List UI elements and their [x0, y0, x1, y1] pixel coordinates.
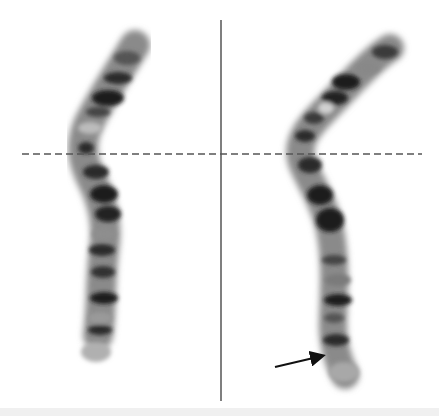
bottom-strip: [0, 408, 439, 416]
right-chromosome: [295, 45, 398, 382]
left-chromosome: [78, 45, 140, 362]
arrow-icon: [275, 356, 322, 367]
chromosome-figure: [0, 0, 439, 416]
